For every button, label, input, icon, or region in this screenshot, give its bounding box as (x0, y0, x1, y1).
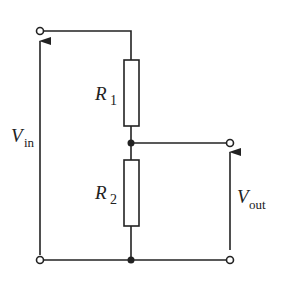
junction-dot-middle (128, 140, 135, 147)
junction-dot-bottom (128, 257, 135, 264)
label-r1: R (94, 83, 107, 104)
terminal-vin-top (37, 28, 44, 35)
top-wire (43, 31, 131, 60)
label-vin-subscript: in (24, 135, 35, 150)
label-r1-subscript: 1 (110, 93, 117, 108)
resistor-r2 (124, 160, 139, 226)
label-r2-subscript: 2 (110, 192, 117, 207)
terminal-vin-bottom (37, 257, 44, 264)
label-vout-subscript: out (249, 197, 266, 212)
voltage-divider-diagram: R 1 R 2 V in V out (0, 0, 285, 284)
resistor-r1 (124, 60, 139, 126)
label-r2: R (94, 182, 107, 203)
terminal-vout-top (227, 140, 234, 147)
terminal-vout-bottom (227, 257, 234, 264)
label-vin: V (11, 125, 25, 146)
